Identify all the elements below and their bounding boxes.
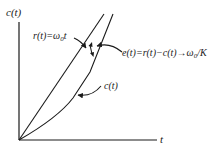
ramp-input-line [19, 14, 104, 140]
ramp-response-diagram: c(t) t r(t)=ω0t e(t)=r(t)−c(t)→ω0/K c(t) [0, 0, 213, 148]
error-arrow-head-top [89, 42, 93, 47]
error-label: e(t)=r(t)−c(t)→ω0/K [122, 47, 208, 60]
response-label-pointer [78, 86, 101, 95]
response-label: c(t) [104, 80, 119, 92]
ramp-input-label: r(t)=ω0t [33, 30, 67, 43]
x-axis-label: t [160, 133, 164, 145]
error-arrow-head-bottom [90, 52, 94, 57]
diagram-svg: c(t) t r(t)=ω0t e(t)=r(t)−c(t)→ω0/K c(t) [0, 0, 213, 148]
y-axis-label: c(t) [6, 6, 22, 19]
